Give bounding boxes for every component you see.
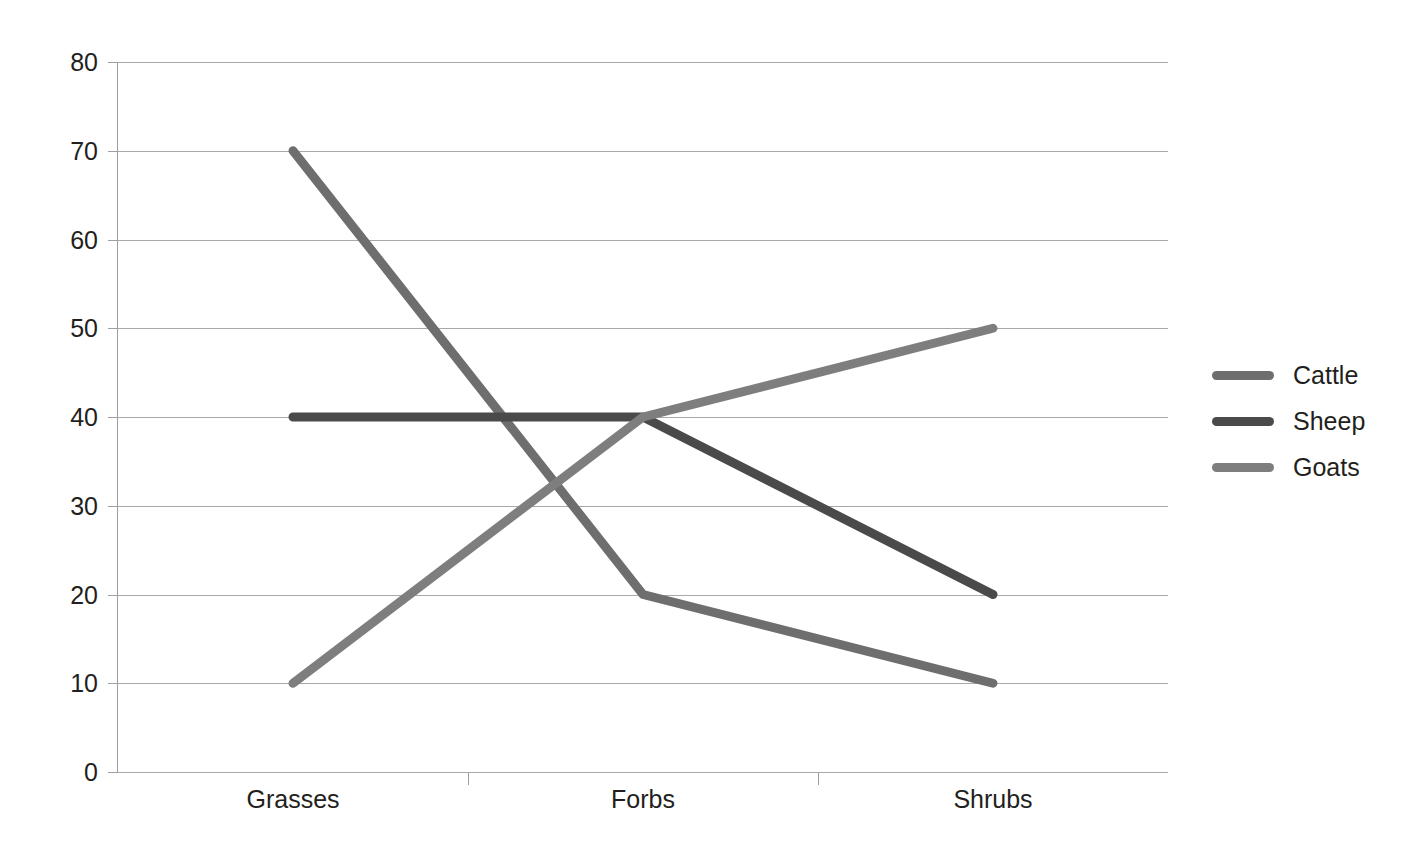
- gridline: [118, 683, 1168, 684]
- y-axis-tick: [108, 240, 118, 241]
- y-axis-tick-label: 20: [38, 580, 98, 609]
- gridline: [118, 772, 1168, 773]
- y-axis-tick-label: 80: [38, 48, 98, 77]
- y-axis-tick: [108, 772, 118, 773]
- gridline: [118, 417, 1168, 418]
- y-axis-tick: [108, 595, 118, 596]
- x-axis-tick: [818, 773, 819, 785]
- chart-legend: CattleSheepGoats: [1212, 352, 1402, 490]
- gridline: [118, 506, 1168, 507]
- x-axis-tick: [468, 773, 469, 785]
- y-axis-tick-label: 50: [38, 314, 98, 343]
- gridline: [118, 62, 1168, 63]
- y-axis-tick: [108, 62, 118, 63]
- legend-item-cattle[interactable]: Cattle: [1212, 352, 1402, 398]
- legend-line-swatch-icon: [1212, 463, 1274, 472]
- y-axis-tick-label: 60: [38, 225, 98, 254]
- gridline: [118, 151, 1168, 152]
- y-axis-tick: [108, 417, 118, 418]
- legend-line-swatch-icon: [1212, 417, 1274, 426]
- x-axis-tick-label: Forbs: [611, 785, 675, 814]
- x-axis-tick-label: Shrubs: [953, 785, 1032, 814]
- y-axis-tick-label: 40: [38, 403, 98, 432]
- y-axis-tick-label: 30: [38, 491, 98, 520]
- gridline: [118, 240, 1168, 241]
- y-axis-tick: [108, 328, 118, 329]
- y-axis-tick-label: 70: [38, 136, 98, 165]
- y-axis-tick-label: 10: [38, 669, 98, 698]
- legend-label: Cattle: [1293, 361, 1358, 390]
- legend-label: Sheep: [1293, 407, 1365, 436]
- y-axis-tick: [108, 506, 118, 507]
- legend-label: Goats: [1293, 453, 1360, 482]
- legend-item-goats[interactable]: Goats: [1212, 444, 1402, 490]
- gridline: [118, 595, 1168, 596]
- gridline: [118, 328, 1168, 329]
- plot-area: [118, 62, 1168, 772]
- y-axis-tick: [108, 683, 118, 684]
- y-axis-tick-label: 0: [38, 758, 98, 787]
- y-axis-tick: [108, 151, 118, 152]
- line-chart: 01020304050607080 GrassesForbsShrubs Cat…: [0, 0, 1408, 854]
- x-axis-tick-label: Grasses: [246, 785, 339, 814]
- legend-item-sheep[interactable]: Sheep: [1212, 398, 1402, 444]
- legend-line-swatch-icon: [1212, 371, 1274, 380]
